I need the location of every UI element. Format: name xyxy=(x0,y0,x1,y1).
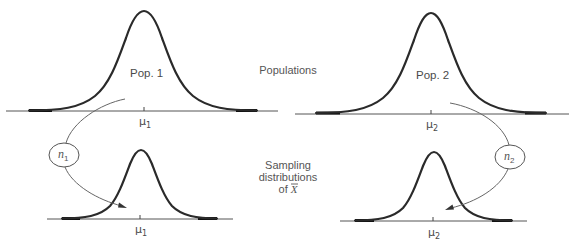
sampling-distribution-1-mean-label: μ1 xyxy=(135,223,147,238)
population-1-distribution: μ1 Pop. 1 xyxy=(6,11,278,130)
two-population-sampling-diagram: μ1 Pop. 1 μ2 Pop. 2 Populations Sampling… xyxy=(0,0,575,246)
population-1-label: Pop. 1 xyxy=(130,67,163,79)
sampling-distribution-1-curve xyxy=(62,150,217,219)
sampling-label-line-2: distributions xyxy=(259,171,318,183)
population-2-mean-label: μ2 xyxy=(426,118,438,133)
sampling-distribution-2-mean-label: μ2 xyxy=(428,226,440,241)
population-2-label: Pop. 2 xyxy=(416,69,449,81)
sample-arrow-1-arrowhead xyxy=(118,203,127,209)
sampling-distribution-2-curve xyxy=(355,152,512,221)
sample-arrow-1: n1 xyxy=(49,99,127,208)
population-2-distribution: μ2 Pop. 2 xyxy=(295,13,569,133)
population-1-curve xyxy=(29,11,257,111)
sample-arrow-2-arrowhead xyxy=(445,205,454,211)
population-2-curve xyxy=(316,13,546,113)
population-1-mean-label: μ1 xyxy=(139,115,151,130)
sampling-label-line-3: of X xyxy=(279,183,299,195)
populations-label: Populations xyxy=(259,64,317,76)
sampling-distributions-label: Sampling distributions of X xyxy=(259,159,318,195)
sampling-label-line-1: Sampling xyxy=(265,159,311,171)
